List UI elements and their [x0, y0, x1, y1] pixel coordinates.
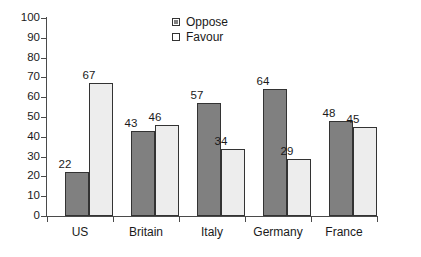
y-axis-label-70: 70: [27, 71, 40, 83]
y-axis-tick-70: [41, 77, 46, 78]
y-axis-tick-20: [41, 176, 46, 177]
legend-swatch-oppose-icon: [172, 18, 180, 26]
bar-value-france-favour: 45: [341, 114, 365, 126]
bar-italy-oppose[interactable]: [197, 103, 221, 216]
x-axis-tick-3: [245, 217, 246, 222]
x-axis-tick-1: [113, 217, 114, 222]
bar-value-britain-favour: 46: [143, 112, 167, 124]
y-axis-label-40: 40: [27, 131, 40, 143]
x-axis-line: [46, 216, 378, 217]
legend-item-favour[interactable]: Favour: [172, 29, 228, 44]
x-axis-tick-start: [47, 217, 48, 222]
y-axis-label-100: 100: [21, 12, 40, 24]
bar-value-italy-favour: 34: [209, 136, 233, 148]
bar-italy-favour[interactable]: [221, 149, 245, 216]
legend-label-oppose: Oppose: [186, 16, 228, 28]
legend-label-favour: Favour: [186, 31, 223, 43]
bar-value-germany-favour: 29: [275, 146, 299, 158]
bar-us-oppose[interactable]: [65, 172, 89, 216]
y-axis-tick-60: [41, 97, 46, 98]
y-axis-label-10: 10: [27, 190, 40, 202]
y-axis-label-0: 0: [34, 210, 40, 222]
y-axis-tick-0: [41, 216, 46, 217]
bar-value-france-oppose: 48: [317, 108, 341, 120]
bar-value-germany-oppose: 64: [251, 76, 275, 88]
x-axis-tick-end: [377, 217, 378, 222]
legend: Oppose Favour: [172, 14, 228, 44]
y-axis-label-80: 80: [27, 52, 40, 64]
y-axis-tick-10: [41, 196, 46, 197]
y-axis-tick-50: [41, 117, 46, 118]
y-axis-tick-80: [41, 58, 46, 59]
category-label-us: US: [47, 226, 113, 239]
y-axis-label-20: 20: [27, 170, 40, 182]
x-axis-tick-4: [311, 217, 312, 222]
category-label-germany: Germany: [245, 226, 311, 239]
bar-britain-oppose[interactable]: [131, 131, 155, 216]
y-axis-tick-30: [41, 157, 46, 158]
y-axis-label-90: 90: [27, 32, 40, 44]
bar-chart: 0 10 20 30 40 50 60 70 80 90 100: [0, 0, 421, 257]
legend-swatch-favour-icon: [172, 33, 180, 41]
bar-britain-favour[interactable]: [155, 125, 179, 216]
bar-value-us-oppose: 22: [53, 159, 77, 171]
y-axis-label-50: 50: [27, 111, 40, 123]
category-label-italy: Italy: [179, 226, 245, 239]
y-axis-tick-40: [41, 137, 46, 138]
x-axis-tick-2: [179, 217, 180, 222]
bar-us-favour[interactable]: [89, 83, 113, 216]
y-axis-tick-90: [41, 38, 46, 39]
bar-value-us-favour: 67: [77, 70, 101, 82]
bar-germany-favour[interactable]: [287, 159, 311, 216]
legend-item-oppose[interactable]: Oppose: [172, 14, 228, 29]
bar-france-oppose[interactable]: [329, 121, 353, 216]
bar-value-britain-oppose: 43: [119, 118, 143, 130]
category-label-britain: Britain: [113, 226, 179, 239]
y-axis-label-60: 60: [27, 91, 40, 103]
bar-france-favour[interactable]: [353, 127, 377, 216]
category-label-france: France: [311, 226, 377, 239]
bar-value-italy-oppose: 57: [185, 90, 209, 102]
y-axis-label-30: 30: [27, 151, 40, 163]
y-axis-tick-100: [41, 18, 46, 19]
